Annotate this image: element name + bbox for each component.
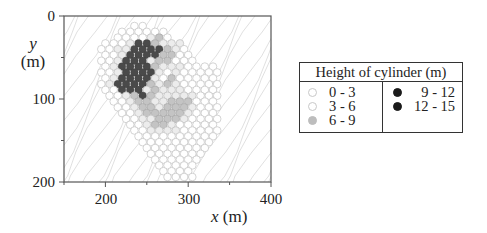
y-tick-100: 100: [33, 91, 56, 107]
cylinder-cell: [180, 173, 188, 181]
legend-column-right: 9 - 12 12 - 15: [383, 82, 462, 133]
x-axis-label: x (m): [210, 207, 247, 226]
legend: Height of cylinder (m) 0 - 3 3 - 6 6 - 9…: [299, 62, 463, 133]
legend-label: 6 - 9: [329, 113, 356, 127]
legend-entry-3-6: 3 - 6: [308, 99, 382, 113]
y-tick-0: 0: [48, 8, 56, 24]
x-axis-label-unit: (m): [219, 207, 248, 226]
legend-label: 9 - 12: [414, 85, 455, 99]
cylinder-cell: [164, 173, 172, 181]
circle-swatch-icon: [308, 102, 317, 111]
legend-entry-0-3: 0 - 3: [308, 85, 382, 99]
x-tick-200: 200: [95, 191, 118, 207]
circle-swatch-icon: [308, 116, 317, 125]
legend-label: 3 - 6: [329, 99, 356, 113]
cylinder-cell: [188, 173, 196, 181]
legend-entry-9-12: 9 - 12: [393, 85, 462, 99]
legend-label: 12 - 15: [414, 99, 455, 113]
x-tick-400: 400: [260, 191, 283, 207]
cylinder-cell: [172, 173, 180, 181]
y-axis-label-unit: (m): [21, 52, 46, 71]
legend-label: 0 - 3: [329, 85, 356, 99]
y-tick-200: 200: [33, 174, 56, 190]
legend-entry-6-9: 6 - 9: [308, 113, 382, 127]
legend-entry-12-15: 12 - 15: [393, 99, 462, 113]
legend-title: Height of cylinder (m): [300, 63, 462, 82]
circle-swatch-icon: [393, 88, 402, 97]
y-axis-label-var: y: [27, 34, 37, 53]
circle-swatch-icon: [393, 102, 402, 111]
circle-swatch-icon: [308, 88, 317, 97]
legend-column-left: 0 - 3 3 - 6 6 - 9: [300, 82, 383, 133]
x-tick-300: 300: [178, 191, 201, 207]
